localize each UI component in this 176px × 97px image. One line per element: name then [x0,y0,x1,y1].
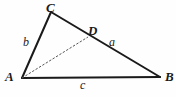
vertex-label-D: D [88,24,97,37]
vertex-label-B: B [165,70,174,83]
triangle-diagram: C A B D a b c [0,0,176,97]
edge-AB [22,77,160,78]
side-label-a: a [109,36,115,48]
vertex-label-C: C [46,1,55,14]
vertex-label-A: A [5,70,14,83]
side-label-c: c [80,79,85,91]
edge-CB [51,12,160,77]
side-label-b: b [23,36,29,48]
